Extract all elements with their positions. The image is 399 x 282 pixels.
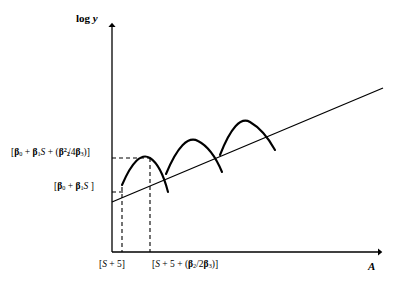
variable-S: S (41, 147, 46, 157)
figure-container: log y A [β0 + β1S + (β22/4β3)] [β0 + β1S… (0, 0, 399, 282)
arc-1 (122, 157, 168, 192)
number-five: 5 (170, 259, 175, 269)
plus-sign-1: + (162, 259, 167, 269)
arc-3 (220, 121, 275, 155)
plus-sign-2: + (48, 147, 53, 157)
x-axis-title: A (368, 261, 375, 272)
x-axis-label-segment-peak: [S + 5 + (β2/2β3)] (152, 260, 218, 270)
y-axis-title-variable: y (93, 12, 98, 24)
variable-S: S (102, 259, 107, 269)
variable-S: S (155, 259, 160, 269)
plot-canvas (0, 0, 399, 282)
beta-2: β22 (59, 147, 68, 157)
bracket-close: ] (87, 147, 90, 157)
y-axis-label-peak-level: [β0 + β1S + (β22/4β3)] (11, 148, 90, 158)
trend-line (112, 88, 383, 202)
plus-sign-1: + (25, 147, 30, 157)
plus-sign-2: + (177, 259, 182, 269)
divide-by-two: /2 (196, 259, 203, 269)
y-axis-label-intercept-level: [β0 + β1S ] (54, 182, 94, 192)
arc-2 (166, 140, 222, 174)
plus-sign: + (109, 259, 114, 269)
plus-sign: + (68, 181, 73, 191)
y-axis-title: log y (76, 13, 98, 24)
beta-0-subscript: 0 (19, 150, 22, 157)
y-axis-title-static: log (76, 12, 90, 24)
x-axis-label-segment-start: [S + 5] (99, 260, 125, 270)
bracket-close: ] (215, 259, 218, 269)
beta-0-subscript: 0 (62, 184, 65, 191)
variable-S: S (84, 181, 89, 191)
bracket-close: ] (91, 181, 94, 191)
bracket-close: ] (122, 259, 125, 269)
